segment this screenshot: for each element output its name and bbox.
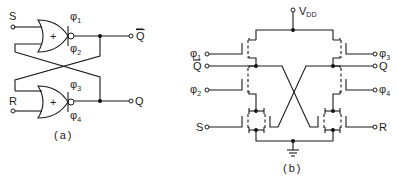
upper-nor-gate: + φ1 φ2 — [38, 10, 81, 56]
vdd-terminal — [291, 8, 295, 12]
q-bar-label: Q — [193, 60, 202, 72]
phi3-label: φ3 — [70, 78, 81, 92]
vdd-rail — [256, 30, 333, 40]
r-gate-wire — [346, 116, 373, 127]
inverter-bubble — [68, 99, 74, 105]
r-input-terminal — [11, 109, 15, 113]
panel-a: S + φ1 φ2 Q + φ3 — [9, 10, 145, 141]
q-output-terminal — [129, 99, 133, 103]
q-bar-output-label: Q — [136, 30, 145, 42]
r-label: R — [379, 121, 387, 133]
s-terminal — [205, 125, 209, 129]
s-label: S — [196, 121, 203, 133]
phi1-terminal — [205, 52, 209, 56]
phi1-label: φ1 — [190, 47, 201, 61]
q-bar-output-terminal — [129, 34, 133, 38]
right-transistor-stack — [324, 38, 341, 141]
ground-icon — [287, 150, 299, 156]
phi3-label: φ3 — [379, 47, 390, 61]
phi4-label: φ4 — [70, 109, 81, 123]
r-terminal — [373, 125, 377, 129]
phi3-terminal — [373, 52, 377, 56]
feedback-wire-upper — [15, 44, 42, 52]
q-label: Q — [379, 60, 388, 72]
q-output-label: Q — [135, 95, 144, 107]
phi1-label: φ1 — [70, 10, 81, 24]
left-transistor-stack — [248, 38, 333, 141]
q-bar-terminal — [205, 64, 209, 68]
phi1-gate-wire — [209, 43, 242, 54]
panel-b-caption: (b) — [283, 162, 302, 174]
nor-plus-symbol: + — [50, 30, 56, 42]
s-gate-wire — [209, 116, 242, 127]
phi3-gate-wire — [346, 43, 373, 54]
phi2-label: φ2 — [70, 42, 81, 56]
panel-a-caption: (a) — [54, 129, 73, 141]
panel-b: VDD — [190, 5, 390, 174]
phi2-terminal — [205, 88, 209, 92]
phi4-label: φ4 — [379, 83, 390, 97]
vdd-label: VDD — [299, 5, 316, 18]
s-input-label: S — [9, 10, 16, 22]
cross-wire-q-to-left — [270, 66, 333, 127]
nor-plus-symbol: + — [50, 96, 56, 108]
phi2-label: φ2 — [190, 83, 201, 97]
latch-diagram: S + φ1 φ2 Q + φ3 — [0, 0, 399, 185]
r-input-label: R — [9, 95, 17, 107]
phi4-terminal — [373, 88, 377, 92]
junction-dot — [98, 99, 102, 103]
phi4-gate-wire — [346, 79, 373, 90]
phi2-gate-wire — [209, 79, 242, 90]
cross-wire-q-bar-to-right — [256, 66, 318, 127]
inverter-bubble — [68, 33, 74, 39]
q-terminal — [373, 64, 377, 68]
